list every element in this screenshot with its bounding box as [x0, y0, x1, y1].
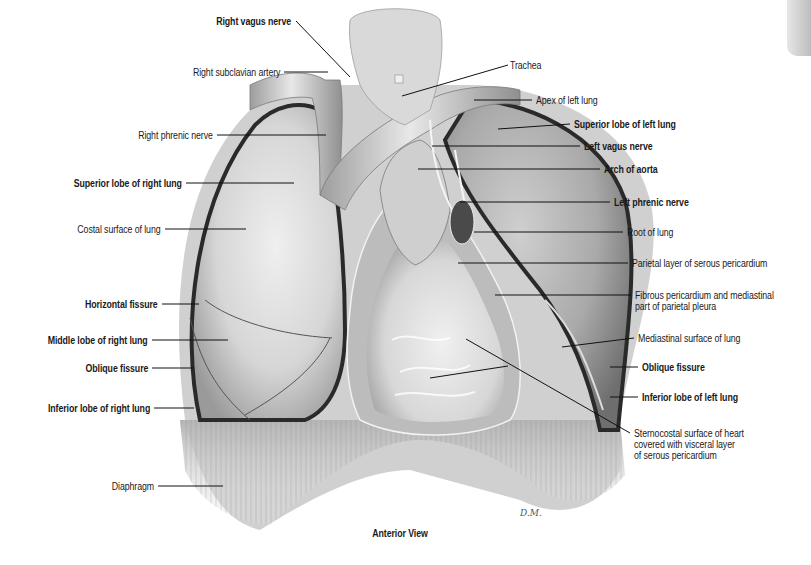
label-middle-lobe-of-right-lung: Middle lobe of right lung	[48, 335, 148, 346]
anatomy-figure: Right vagus nerveRight subclavian artery…	[0, 0, 811, 565]
label-arch-of-aorta: Arch of aorta	[604, 164, 658, 175]
label-root-of-lung: Root of lung	[627, 227, 673, 238]
label-horizontal-fissure: Horizontal fissure	[85, 299, 158, 310]
label-text-line: Left vagus nerve	[584, 141, 653, 152]
label-fibrous-pericardium: Fibrous pericardium and mediastinalpart …	[635, 290, 774, 312]
right-vagus-nerve-leader-line	[296, 21, 350, 77]
page-edge-tab	[787, 0, 811, 56]
label-text-line: Trachea	[510, 60, 541, 71]
label-oblique-fissure-right: Oblique fissure	[85, 363, 148, 374]
label-text-line: Oblique fissure	[85, 363, 148, 374]
label-parietal-layer-of-serous-pericardium: Parietal layer of serous pericardium	[632, 258, 767, 269]
label-text-line: Root of lung	[627, 227, 673, 238]
label-costal-surface-of-lung: Costal surface of lung	[78, 224, 161, 235]
label-text-line: of serous pericardium	[634, 450, 744, 461]
label-right-phrenic-nerve: Right phrenic nerve	[138, 130, 213, 141]
label-text-line: Diaphragm	[112, 481, 154, 492]
label-text-line: Middle lobe of right lung	[48, 335, 148, 346]
label-text-line: Horizontal fissure	[85, 299, 158, 310]
artist-signature: D.M.	[520, 508, 542, 518]
label-text-line: Superior lobe of left lung	[574, 119, 676, 130]
label-superior-lobe-of-right-lung: Superior lobe of right lung	[74, 178, 182, 189]
label-text-line: Right subclavian artery	[193, 67, 280, 78]
label-text-line: Inferior lobe of left lung	[642, 392, 738, 403]
label-text-line: Left phrenic nerve	[614, 197, 689, 208]
label-inferior-lobe-of-left-lung: Inferior lobe of left lung	[642, 392, 738, 403]
label-sternocostal-surface-of-heart: Sternocostal surface of heartcovered wit…	[634, 428, 744, 461]
label-text-line: Fibrous pericardium and mediastinal	[635, 290, 774, 301]
label-text-line: Costal surface of lung	[78, 224, 161, 235]
label-left-vagus-nerve: Left vagus nerve	[584, 141, 653, 152]
label-text-line: Right vagus nerve	[216, 16, 291, 27]
label-right-subclavian-artery: Right subclavian artery	[193, 67, 280, 78]
label-text-line: covered with visceral layer	[634, 439, 744, 450]
label-text-line: Oblique fissure	[642, 362, 705, 373]
label-oblique-fissure-left: Oblique fissure	[642, 362, 705, 373]
label-text-line: Parietal layer of serous pericardium	[632, 258, 767, 269]
label-text-line: Right phrenic nerve	[138, 130, 213, 141]
label-inferior-lobe-of-right-lung: Inferior lobe of right lung	[48, 403, 150, 414]
label-text-line: Mediastinal surface of lung	[638, 333, 740, 344]
label-left-phrenic-nerve: Left phrenic nerve	[614, 197, 689, 208]
label-diaphragm: Diaphragm	[112, 481, 154, 492]
label-text-line: Superior lobe of right lung	[74, 178, 182, 189]
label-apex-of-left-lung: Apex of left lung	[536, 95, 598, 106]
label-superior-lobe-of-left-lung: Superior lobe of left lung	[574, 119, 676, 130]
label-trachea: Trachea	[510, 60, 541, 71]
label-text-line: Inferior lobe of right lung	[48, 403, 150, 414]
label-text-line: Sternocostal surface of heart	[634, 428, 744, 439]
label-text-line: Arch of aorta	[604, 164, 658, 175]
label-mediastinal-surface-of-lung: Mediastinal surface of lung	[638, 333, 740, 344]
label-text-line: Apex of left lung	[536, 95, 598, 106]
label-text-line: part of parietal pleura	[635, 301, 774, 312]
label-right-vagus-nerve: Right vagus nerve	[216, 16, 291, 27]
figure-caption: Anterior View	[338, 528, 461, 539]
